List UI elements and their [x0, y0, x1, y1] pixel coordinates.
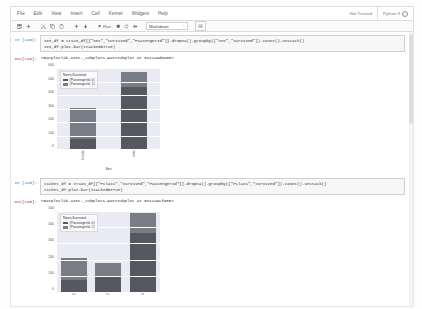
notebook-scroll-area[interactable]: In [146]: sex_df = train_df[["Sex","Surv… — [10, 32, 414, 307]
y-tick-label: 300 — [48, 238, 54, 242]
legend-swatch-icon — [63, 226, 68, 228]
menu-help[interactable]: Help — [158, 11, 168, 17]
y-tick-label: 600 — [48, 63, 54, 67]
legend-swatch-icon — [63, 79, 68, 81]
cell-output-row: Out[146]: <matplotlib.axes._subplots.Axe… — [11, 54, 405, 62]
x-tick-label: 3 — [141, 293, 145, 295]
x-axis-ticks: 123 — [57, 293, 160, 306]
kernel-indicator[interactable]: Python 3 — [377, 7, 413, 20]
add-cell-icon[interactable] — [25, 22, 31, 30]
y-tick-label: 500 — [48, 77, 54, 81]
bar-segment — [70, 108, 96, 139]
y-tick-label: 400 — [48, 222, 54, 226]
legend-label: (PassengerId, 1) — [70, 225, 95, 230]
y-axis-ticks: 0100200300400500600 — [37, 69, 56, 150]
copy-cell-icon[interactable] — [49, 22, 55, 30]
legend-label: (PassengerId, 1) — [70, 82, 95, 87]
menu-widgets[interactable]: Widgets — [132, 11, 149, 17]
command-palette-button[interactable] — [195, 21, 206, 31]
x-tick-label: 2 — [106, 293, 110, 295]
input-prompt: In [146]: — [11, 35, 40, 43]
menu-item-list: File Edit View Insert Cell Kernel Widget… — [11, 11, 168, 17]
cell-type-value: Markdown — [149, 24, 169, 29]
notebook-cell[interactable]: In [145]: ticket_df = train_df[["Pclass"… — [11, 178, 405, 307]
cell-type-select[interactable]: Markdown ↕ — [146, 22, 188, 30]
menu-edit[interactable]: Edit — [34, 11, 42, 17]
legend-swatch-icon — [63, 222, 68, 224]
code-line: sex_df.plot.bar(stacked=True) — [44, 44, 401, 50]
y-tick-label: 200 — [48, 117, 54, 121]
toolbar: Run Markdown ↕ — [10, 20, 414, 32]
paste-cell-icon[interactable] — [58, 22, 64, 30]
kernel-name-label: Python 3 — [383, 11, 400, 16]
bar-segment — [121, 72, 147, 87]
move-cell-up-icon[interactable] — [73, 22, 79, 30]
gridline — [57, 95, 160, 96]
menu-view[interactable]: View — [51, 11, 61, 17]
cell-input-row: In [145]: ticket_df = train_df[["Pclass"… — [11, 178, 405, 195]
y-tick-label: 100 — [48, 271, 54, 275]
output-prompt: Out[145]: — [11, 197, 40, 205]
y-tick-label: 0 — [52, 287, 54, 291]
bar-segment — [121, 87, 147, 150]
notebook-cell[interactable]: In [146]: sex_df = train_df[["Sex","Surv… — [11, 35, 405, 172]
cut-cell-icon[interactable] — [40, 22, 46, 30]
y-tick-label: 200 — [48, 255, 54, 259]
input-prompt: In [145]: — [11, 178, 40, 186]
matplotlib-figure: 0100200300400500600 None,Survived (Passe… — [37, 64, 165, 172]
run-label: Run — [103, 24, 111, 29]
bar-stack — [95, 212, 121, 293]
cell-output-row: Out[145]: <matplotlib.axes._subplots.Axe… — [11, 197, 405, 205]
x-tick-label: male — [132, 150, 136, 157]
cell-input-row: In [146]: sex_df = train_df[["Sex","Surv… — [11, 35, 405, 52]
code-editor[interactable]: sex_df = train_df[["Sex","Survived","Pas… — [40, 35, 405, 52]
menu-cell[interactable]: Cell — [92, 11, 100, 17]
restart-kernel-icon[interactable] — [124, 22, 130, 30]
x-tick-label: 1 — [72, 293, 76, 295]
output-text-area: <matplotlib.axes._subplots.AxesSubplot a… — [40, 54, 405, 61]
gridline — [57, 68, 160, 69]
chart-legend: None,Survived (PassengerId, 0) (Passenge… — [60, 214, 98, 232]
bar-segment — [95, 277, 121, 293]
menu-bar: File Edit View Insert Cell Kernel Widget… — [10, 6, 414, 20]
cell-spacer — [11, 172, 413, 175]
y-tick-label: 400 — [48, 90, 54, 94]
gridline — [57, 122, 160, 123]
gridline — [57, 211, 160, 212]
menu-bar-right: Not Trusted Python 3 — [345, 7, 413, 20]
jupyter-notebook-window: File Edit View Insert Cell Kernel Widget… — [0, 0, 422, 309]
output-repr: <matplotlib.axes._subplots.AxesSubplot a… — [41, 55, 405, 61]
legend-item: (PassengerId, 1) — [63, 225, 95, 230]
menu-file[interactable]: File — [17, 11, 25, 17]
legend-swatch-icon — [63, 83, 68, 85]
code-editor[interactable]: ticket_df = train_df[["Pclass","Survived… — [40, 178, 405, 195]
vertical-scrollbar[interactable] — [409, 32, 413, 306]
x-axis-ticks: femalemale — [57, 150, 160, 163]
matplotlib-figure: 0100200300400500 None,Survived (Passenge… — [37, 207, 165, 307]
restart-and-run-all-icon[interactable] — [133, 22, 139, 30]
move-cell-down-icon[interactable] — [82, 22, 88, 30]
menu-kernel[interactable]: Kernel — [109, 11, 123, 17]
legend-item: (PassengerId, 1) — [63, 82, 95, 87]
x-tick-label: female — [81, 150, 85, 160]
save-icon[interactable] — [16, 22, 22, 30]
chart-legend: None,Survived (PassengerId, 0) (Passenge… — [60, 71, 98, 89]
gridline — [57, 276, 160, 277]
gridline — [57, 260, 160, 261]
menu-insert[interactable]: Insert — [70, 11, 82, 17]
output-text-area: <matplotlib.axes._subplots.AxesSubplot a… — [40, 197, 405, 204]
gridline — [57, 243, 160, 244]
chevron-updown-icon: ↕ — [183, 24, 185, 28]
y-tick-label: 300 — [48, 104, 54, 108]
output-repr: <matplotlib.axes._subplots.AxesSubplot a… — [41, 198, 405, 204]
run-cell-button[interactable]: Run — [97, 24, 112, 29]
trust-status-badge[interactable]: Not Trusted — [345, 11, 377, 16]
scrollbar-thumb[interactable] — [409, 34, 413, 124]
y-axis-ticks: 0100200300400500 — [37, 212, 56, 293]
gridline — [57, 109, 160, 110]
bar-segment — [130, 213, 156, 232]
y-tick-label: 500 — [48, 206, 54, 210]
interrupt-kernel-icon[interactable] — [115, 22, 121, 30]
y-tick-label: 0 — [52, 144, 54, 148]
y-tick-label: 100 — [48, 131, 54, 135]
